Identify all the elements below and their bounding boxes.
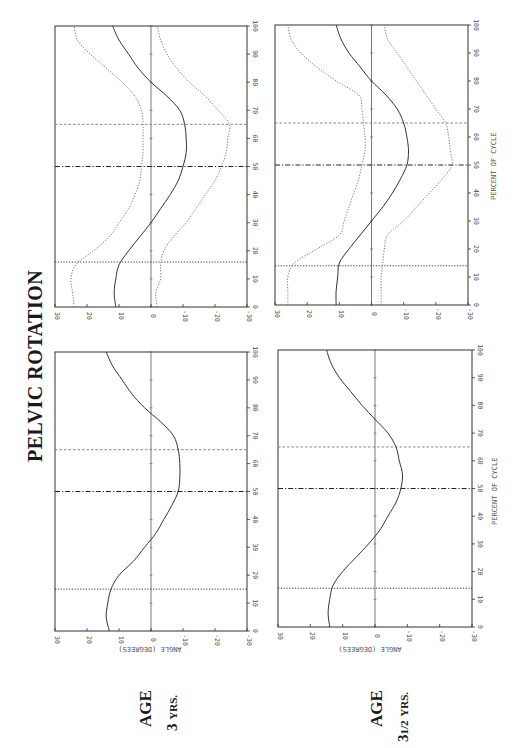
x-tick-label: 80 (476, 401, 484, 409)
y-tick-label: 20 (308, 632, 316, 640)
x-tick-label: 30 (476, 540, 484, 548)
x-tick-label: 0 (476, 625, 484, 629)
chart-age3half-mean: 01020304050607080901003020100-10-20-30 (0, 0, 519, 748)
age-label-left: AGE (136, 690, 156, 727)
age-value-right: 31/2 YRS. (395, 692, 412, 742)
y-tick-label: -20 (438, 630, 446, 642)
x-axis-label-bottom: PERCENT OF CYCLE (491, 458, 499, 525)
y-tick-label: 10 (341, 632, 349, 640)
y-tick-label: 30 (276, 632, 284, 640)
x-tick-label: 20 (476, 568, 484, 576)
x-tick-label: 70 (476, 429, 484, 437)
age-value-left: 3 YRS. (164, 695, 181, 731)
y-axis-label-left: ANGLE (DEGREES) (90, 645, 210, 653)
x-tick-label: 50 (476, 485, 484, 493)
y-tick-label: -10 (405, 630, 413, 642)
y-tick-label: -30 (470, 630, 478, 642)
figure-page: PELVIC ROTATION 010203040506070809010030… (0, 0, 519, 748)
x-tick-label: 100 (476, 344, 484, 356)
x-tick-label: 60 (476, 457, 484, 465)
y-tick-label: 0 (373, 634, 381, 638)
y-axis-label-right: ANGLE (DEGREES) (310, 645, 430, 653)
x-tick-label: 40 (476, 512, 484, 520)
x-tick-label: 90 (476, 374, 484, 382)
age-label-right: AGE (367, 690, 387, 727)
x-axis-label-top: PERCENT OF CYCLE (490, 133, 498, 200)
x-tick-label: 10 (476, 595, 484, 603)
